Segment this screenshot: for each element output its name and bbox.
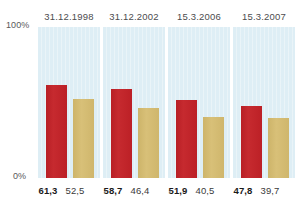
bar-primary-1 <box>111 89 132 178</box>
bar-chart: 100% 0% 31.12.1998 31.12.2002 15.3.2006 … <box>0 0 307 211</box>
bar-group-3 <box>233 27 295 178</box>
bar-group-2 <box>168 27 230 178</box>
bar-group-1 <box>103 27 165 178</box>
value-label-primary-1: 58,7 <box>98 185 128 196</box>
bar-secondary-1 <box>138 108 159 178</box>
category-label-2: 15.3.2006 <box>168 11 230 22</box>
value-label-primary-2: 51,9 <box>163 185 193 196</box>
value-label-secondary-3: 39,7 <box>255 185 285 196</box>
category-label-0: 31.12.1998 <box>38 11 100 22</box>
value-label-secondary-0: 52,5 <box>60 185 90 196</box>
category-label-1: 31.12.2002 <box>103 11 165 22</box>
bar-primary-2 <box>176 100 197 178</box>
value-label-secondary-2: 40,5 <box>190 185 220 196</box>
bar-group-0 <box>38 27 100 178</box>
category-label-3: 15.3.2007 <box>233 11 295 22</box>
value-label-primary-0: 61,3 <box>33 185 63 196</box>
bar-secondary-2 <box>203 117 224 178</box>
y-axis-min-label: 0% <box>13 171 26 181</box>
plot-area <box>38 27 296 178</box>
bar-secondary-0 <box>73 99 94 178</box>
bar-secondary-3 <box>268 118 289 178</box>
bar-primary-0 <box>46 85 67 178</box>
value-label-secondary-1: 46,4 <box>125 185 155 196</box>
y-axis-max-label: 100% <box>6 20 29 30</box>
value-label-primary-3: 47,8 <box>228 185 258 196</box>
bar-primary-3 <box>241 106 262 178</box>
